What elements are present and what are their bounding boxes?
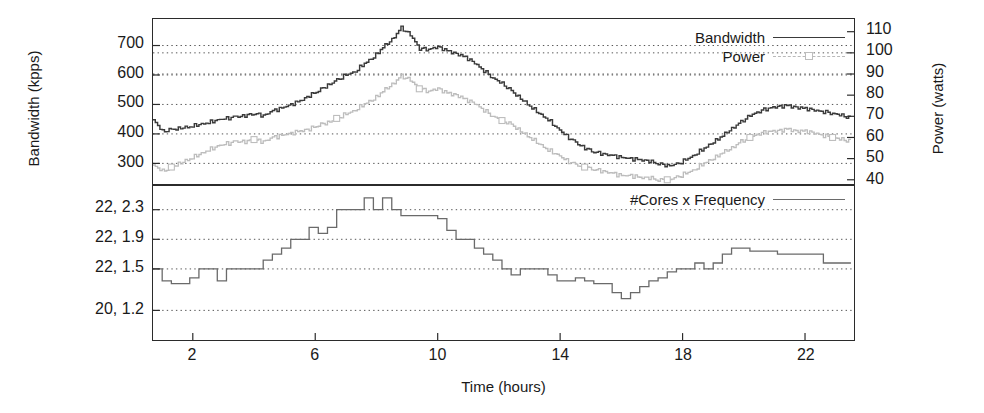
legend-swatch-power [773,51,845,63]
legend-entry-bandwidth: Bandwidth [600,28,845,47]
figure-root: Bandwidth (kpps) Power (watts) Time (hou… [0,0,984,413]
legend-entry-power: Power [600,47,845,66]
ytick-left-top-4: 300 [60,153,144,171]
legend-label-bandwidth: Bandwidth [695,29,765,46]
xticks-5: 22 [776,346,836,364]
xticks-1: 6 [285,346,345,364]
legend-entry-cores-frequency: #Cores x Frequency [590,190,845,209]
ytick-left-bottom-1: 22, 1.9 [36,228,144,246]
ytick-left-top-2: 500 [60,93,144,111]
legend-bottom: #Cores x Frequency [590,190,845,209]
xticks-3: 14 [530,346,590,364]
legend-label-cores-frequency: #Cores x Frequency [630,191,765,208]
x-axis-label: Time (hours) [152,378,855,395]
ytick-left-top-1: 600 [60,64,144,82]
legend-swatch-bandwidth [773,32,845,44]
ytick-right-top-6: 50 [866,148,884,166]
ytick-right-top-2: 90 [866,63,884,81]
ytick-left-top-3: 400 [60,123,144,141]
legend-marker-square [805,52,813,60]
legend-label-power: Power [722,48,765,65]
ytick-left-bottom-2: 22, 1.5 [36,258,144,276]
y-axis-label-left: Bandwidth (kpps) [25,24,42,194]
ytick-right-top-5: 60 [866,127,884,145]
xticks-0: 2 [162,346,222,364]
ytick-right-top-3: 80 [866,84,884,102]
ytick-right-top-0: 110 [866,20,892,38]
xticks-2: 10 [407,346,467,364]
ytick-right-top-4: 70 [866,105,884,123]
ytick-right-top-7: 40 [866,170,884,188]
y-axis-label-right: Power (watts) [929,24,946,194]
ytick-left-bottom-0: 22, 2.3 [36,198,144,216]
xticks-4: 18 [653,346,713,364]
ytick-left-top-0: 700 [60,34,144,52]
legend-swatch-cores-frequency [773,194,845,206]
ytick-right-top-1: 100 [866,41,893,59]
cores-frequency-plot [153,186,854,340]
legend-top: Bandwidth Power [600,28,845,66]
ytick-left-bottom-3: 20, 1.2 [36,300,144,318]
